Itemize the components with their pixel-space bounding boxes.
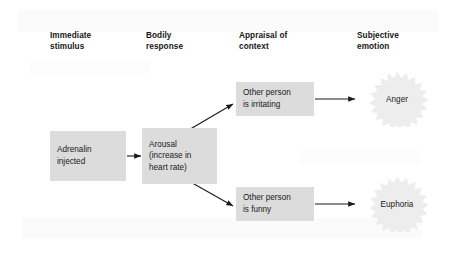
node-arousal-label: Arousal (increase in heart rate)	[142, 139, 195, 174]
node-adrenalin-injected-label: Adrenalin injected	[50, 144, 96, 167]
node-emotion-euphoria[interactable]: Euphoria	[358, 176, 436, 232]
node-arousal[interactable]: Arousal (increase in heart rate)	[142, 128, 217, 184]
edge-arousal-to-irritating	[187, 104, 233, 131]
node-appraisal-irritating-label: Other person is irritating	[236, 87, 295, 110]
column-header-subjective-emotion: Subjective emotion	[357, 30, 399, 53]
column-header-appraisal-of-context: Appraisal of context	[239, 30, 287, 53]
node-emotion-euphoria-label: Euphoria	[358, 176, 436, 232]
node-adrenalin-injected[interactable]: Adrenalin injected	[50, 131, 126, 181]
node-emotion-anger-label: Anger	[358, 71, 436, 127]
column-header-immediate-stimulus: Immediate stimulus	[50, 30, 91, 53]
node-appraisal-funny-label: Other person is funny	[236, 192, 295, 215]
node-appraisal-funny[interactable]: Other person is funny	[236, 187, 314, 221]
diagram-canvas: Immediate stimulus Bodily response Appra…	[0, 0, 455, 253]
node-appraisal-irritating[interactable]: Other person is irritating	[236, 82, 314, 116]
column-header-bodily-response: Bodily response	[146, 30, 183, 53]
node-emotion-anger[interactable]: Anger	[358, 71, 436, 127]
